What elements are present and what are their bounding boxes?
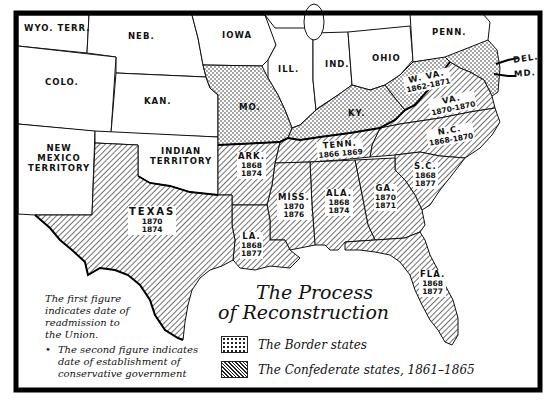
map-title: The Process of Reconstruction — [218, 283, 389, 323]
label-neb: NEB. — [128, 32, 155, 42]
note-second-figure: • The second figure indicates date of es… — [45, 344, 198, 380]
legend-label: The Confederate states, 1861–1865 — [258, 363, 475, 377]
label-ala: ALA. 1868 1874 — [325, 189, 353, 216]
bullet: • — [45, 344, 51, 380]
label-sc: S.C. 1868 1877 — [413, 162, 438, 189]
state-colo — [18, 46, 116, 133]
label-ind: IND. — [325, 60, 350, 70]
note-first-figure: The first figure indicates date of readm… — [45, 293, 129, 341]
legend-confederate-states: The Confederate states, 1861–1865 — [221, 361, 475, 378]
dotted-swatch — [221, 336, 248, 353]
label-tex: TEXAS 1870 1874 — [128, 206, 176, 235]
label-ill: ILL. — [278, 65, 299, 75]
title-line-1: The Process — [218, 283, 389, 303]
legend-border-states: The Border states — [221, 336, 367, 353]
title-line-2: of Reconstruction — [218, 303, 389, 323]
label-ga: GA. 1870 1871 — [374, 184, 397, 211]
label-mo: MO. — [239, 103, 261, 113]
label-fla: FLA. 1868 1877 — [419, 270, 446, 297]
label-ark: ARK. 1868 1874 — [237, 152, 266, 179]
label-colo: COLO. — [45, 78, 79, 88]
label-iowa: IOWA — [222, 31, 252, 41]
hatched-swatch — [221, 361, 248, 378]
label-kan: KAN. — [144, 97, 172, 107]
label-penn: PENN. — [432, 28, 467, 38]
label-ky: KY. — [348, 109, 366, 119]
label-wyo: WYO. TERR. — [24, 24, 91, 34]
label-indian: INDIAN TERRITORY — [150, 147, 212, 167]
label-la: LA. 1868 1877 — [240, 232, 263, 259]
legend-label: The Border states — [258, 338, 367, 352]
label-md: MD. — [514, 68, 537, 80]
label-nm: NEW MEXICO TERRITORY — [28, 144, 90, 173]
label-miss: MISS. 1870 1876 — [277, 193, 311, 220]
label-ohio: OHIO — [372, 54, 401, 64]
